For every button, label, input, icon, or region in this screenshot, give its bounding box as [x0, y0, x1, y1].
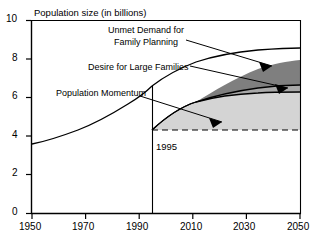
x-tick-label-1970: 1970 — [72, 221, 94, 232]
annotation-unmet-demand-line1: Unmet Demand for — [108, 25, 184, 37]
y-tick-label-2: 2 — [12, 167, 18, 178]
y-tick-label-4: 4 — [12, 129, 18, 140]
population-projection-chart: Population size (in billions) 10 8 6 4 2… — [0, 0, 320, 251]
annotation-population-momentum: Population Momentum — [56, 88, 146, 100]
annotation-unmet-demand-line2: Family Planning — [108, 37, 184, 49]
annotation-desire-large-families: Desire for Large Families — [88, 62, 189, 74]
area-population-momentum — [152, 92, 300, 130]
y-tick-label-8: 8 — [12, 52, 18, 63]
y-tick-label-6: 6 — [12, 90, 18, 101]
reference-label-1995: 1995 — [156, 141, 177, 152]
chart-axis-title: Population size (in billions) — [34, 7, 146, 18]
x-tick-label-2010: 2010 — [180, 221, 202, 232]
x-tick-label-2030: 2030 — [233, 221, 255, 232]
y-tick-label-0: 0 — [12, 206, 18, 217]
x-axis-ticks — [32, 214, 300, 219]
leader-unmet-demand — [186, 40, 272, 72]
x-tick-label-1990: 1990 — [126, 221, 148, 232]
x-tick-label-1950: 1950 — [19, 221, 41, 232]
y-axis-ticks — [26, 21, 31, 214]
y-tick-label-10: 10 — [6, 13, 17, 24]
annotation-unmet-demand: Unmet Demand for Family Planning — [108, 25, 184, 48]
x-tick-label-2050: 2050 — [287, 221, 309, 232]
